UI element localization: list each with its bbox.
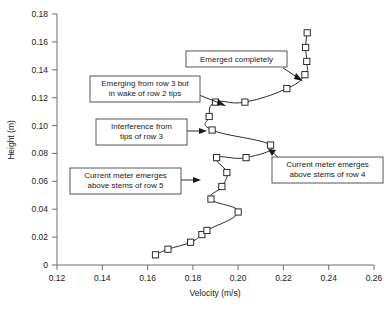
x-tick-label: 0.22	[275, 273, 292, 283]
data-point-marker	[304, 58, 310, 64]
annotation-meter-row-5[interactable]: Current meter emerges above stems of row…	[70, 168, 181, 194]
y-axis-title: Height (m)	[6, 120, 16, 160]
annotation-text: Current meter emerges	[84, 171, 167, 180]
y-tick-label: 0.14	[31, 65, 48, 75]
annotation-text: tips of row 3	[120, 132, 164, 141]
arrow-meter-row-5	[193, 177, 201, 183]
annotation-text: Emerged completely	[200, 55, 273, 64]
y-tick-labels: 0 0.02 0.04 0.06 0.08 0.10 0.12 0.14 0.1…	[31, 9, 48, 270]
y-tick-label: 0.18	[31, 9, 48, 19]
y-tick-label: 0.02	[31, 232, 48, 242]
data-point-marker	[206, 113, 212, 119]
data-point-marker	[242, 99, 248, 105]
y-tick-label: 0.06	[31, 176, 48, 186]
data-point-marker	[165, 246, 171, 252]
annotation-text: above stems of row 4	[289, 170, 366, 179]
annotation-interference-row-3[interactable]: Interference from tips of row 3	[96, 119, 187, 145]
data-point-marker	[235, 209, 241, 215]
chart-canvas: 0 0.02 0.04 0.06 0.08 0.10 0.12 0.14 0.1…	[0, 0, 388, 309]
annotation-text: above stems of row 5	[87, 181, 164, 190]
data-point-marker	[224, 169, 230, 175]
data-point-marker	[304, 30, 310, 36]
annotation-meter-row-4[interactable]: Current meter emerges above stems of row…	[272, 157, 383, 183]
arrow-emerging-row-3	[217, 99, 226, 106]
arrow-interference-row-3	[199, 128, 207, 134]
data-point-marker	[152, 252, 158, 258]
y-tick-label: 0.16	[31, 37, 48, 47]
y-tick-label: 0.08	[31, 148, 48, 158]
velocity-height-chart: 0 0.02 0.04 0.06 0.08 0.10 0.12 0.14 0.1…	[0, 0, 388, 309]
data-point-marker	[208, 196, 214, 202]
data-point-marker	[219, 183, 225, 189]
y-tick-label: 0.10	[31, 121, 48, 131]
annotation-emerged-completely[interactable]: Emerged completely	[186, 51, 287, 67]
data-point-marker	[267, 142, 273, 148]
annotation-text: Interference from	[111, 122, 172, 131]
x-tick-label: 0.26	[366, 273, 383, 283]
x-axis-title: Velocity (m/s)	[189, 288, 240, 298]
data-point-marker	[214, 155, 220, 161]
annotation-text: Emerging from row 3 but	[101, 79, 189, 88]
x-tick-label: 0.12	[49, 273, 66, 283]
x-tick-label: 0.14	[94, 273, 111, 283]
data-point-marker	[302, 72, 308, 78]
data-point-marker	[204, 227, 210, 233]
x-tick-label: 0.16	[139, 273, 156, 283]
data-point-marker	[187, 239, 193, 245]
data-point-marker	[284, 86, 290, 92]
x-tick-marks	[57, 265, 374, 270]
y-tick-label: 0.12	[31, 93, 48, 103]
data-point-marker	[303, 44, 309, 50]
annotation-emerging-row-3[interactable]: Emerging from row 3 but in wake of row 2…	[90, 76, 200, 102]
annotation-text: Current meter emerges	[286, 160, 369, 169]
x-tick-label: 0.18	[185, 273, 202, 283]
y-tick-marks	[52, 14, 57, 265]
data-point-marker	[243, 155, 249, 161]
x-tick-label: 0.24	[320, 273, 337, 283]
y-tick-label: 0	[43, 260, 48, 270]
data-point-marker	[209, 127, 215, 133]
y-tick-label: 0.04	[31, 204, 48, 214]
x-tick-label: 0.20	[230, 273, 247, 283]
x-tick-labels: 0.12 0.14 0.16 0.18 0.20 0.22 0.24 0.26	[49, 273, 383, 283]
annotation-text: in wake of row 2 tips	[109, 89, 181, 98]
